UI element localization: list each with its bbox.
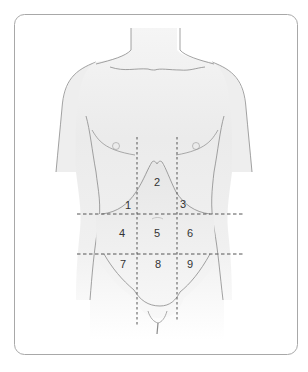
region-label-8: 8 [155,258,161,270]
abdominal-regions-diagram: 1 2 3 4 5 6 7 8 9 [0,0,308,372]
region-label-1: 1 [125,199,131,211]
region-label-9: 9 [187,258,193,270]
region-label-5: 5 [154,227,160,239]
region-label-3: 3 [180,198,186,210]
region-label-2: 2 [154,176,160,188]
region-label-6: 6 [187,227,193,239]
region-label-4: 4 [119,227,125,239]
region-label-7: 7 [120,258,126,270]
